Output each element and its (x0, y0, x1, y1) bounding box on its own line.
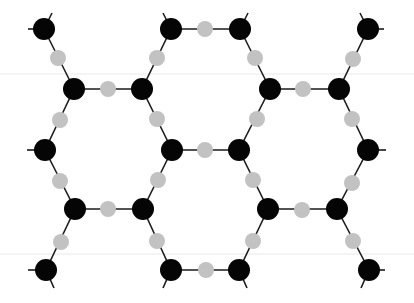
black-atom (259, 78, 281, 100)
gray-atom (52, 173, 68, 189)
gray-atom (197, 142, 213, 158)
gray-atom (50, 50, 66, 66)
black-atom (326, 198, 348, 220)
gray-atom (245, 172, 261, 188)
black-atom (131, 78, 153, 100)
gray-atom (344, 111, 360, 127)
gray-atom (247, 50, 263, 66)
gray-atom (100, 201, 116, 217)
hexagonal-lattice-diagram (0, 0, 414, 303)
gray-atom (149, 50, 165, 66)
black-atom (257, 198, 279, 220)
black-atom (33, 18, 55, 40)
black-atom (64, 198, 86, 220)
scan-artifact-lines (0, 74, 414, 254)
black-atom (357, 18, 379, 40)
black-atom (228, 139, 250, 161)
black-atom (358, 259, 380, 281)
black-atom (34, 139, 56, 161)
gray-atom (53, 234, 69, 250)
gray-atom (249, 111, 265, 127)
black-atom (160, 18, 182, 40)
gray-atom (345, 51, 361, 67)
gray-atom (149, 233, 165, 249)
black-atom (63, 78, 85, 100)
black-atom (328, 78, 350, 100)
black-atom (35, 259, 57, 281)
black-atom (161, 139, 183, 161)
gray-atom (150, 172, 166, 188)
gray-atom (52, 112, 68, 128)
gray-atom (345, 233, 361, 249)
gray-atom (198, 262, 214, 278)
gray-atoms (50, 21, 361, 278)
gray-atom (197, 21, 213, 37)
gray-atom (245, 233, 261, 249)
gray-atom (100, 81, 116, 97)
black-atom (228, 259, 250, 281)
gray-atom (344, 175, 360, 191)
black-atom (357, 139, 379, 161)
gray-atom (295, 81, 311, 97)
black-atom (132, 198, 154, 220)
black-atom (229, 18, 251, 40)
gray-atom (294, 202, 310, 218)
gray-atom (149, 111, 165, 127)
black-atom (160, 259, 182, 281)
